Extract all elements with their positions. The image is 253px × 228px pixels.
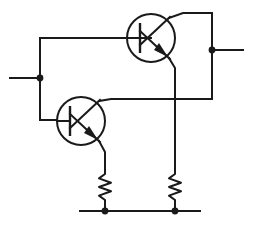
net-base-bias (40, 38, 151, 120)
junction-input-left (37, 75, 44, 82)
resistor-left (99, 169, 111, 205)
net-q2-collector-to-right-bus (99, 99, 212, 101)
transistor-bottom (57, 97, 105, 145)
net-q1-emitter-to-r2 (169, 58, 175, 169)
net-q2-emitter-to-r1 (99, 141, 105, 169)
junction-ground-left (102, 208, 109, 215)
net-q1-collector-to-output (169, 13, 212, 50)
resistor-left-body (99, 169, 111, 205)
circuit-schematic (0, 0, 253, 228)
resistor-right-body (169, 169, 181, 205)
schematic-canvas (0, 0, 253, 228)
transistor-bottom-collector-lead (70, 100, 100, 128)
transistor-top-collector-lead (140, 17, 170, 45)
resistor-right (169, 169, 181, 205)
junction-output-right (209, 47, 216, 54)
junction-ground-right (172, 208, 179, 215)
junction-layer (37, 47, 216, 215)
